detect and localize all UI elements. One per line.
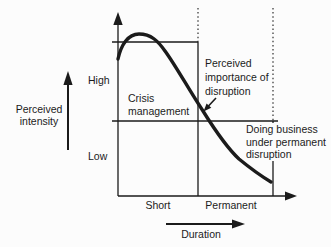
x-tick-short-label: Short [134,199,182,212]
doing-business-line2: under permanent [246,136,326,149]
perceived-importance-line1: Perceived [205,56,269,70]
y-tick-high-label: High [88,74,110,87]
doing-business-line1: Doing business [246,123,326,136]
x-tick-permanent-label: Permanent [202,199,260,212]
y-axis-label-line1: Perceived [10,104,68,116]
disruption-curve-diagram: Perceived intensity High Low Crisis mana… [0,0,331,247]
x-axis-arrowhead [285,192,297,201]
y-axis-label-line2: intensity [10,116,68,128]
importance-annotation-arrow-shaft [209,98,217,106]
crisis-management-label: Crisis management [128,92,189,117]
perceived-importance-line2: importance of [205,70,269,84]
y-tick-low-label: Low [88,150,107,163]
crisis-management-line2: management [128,105,189,118]
x-axis-label: Duration [178,228,224,241]
perceived-importance-label: Perceived importance of disruption [205,56,269,98]
intensity-up-arrowhead [63,71,72,85]
duration-arrowhead [232,219,245,228]
doing-business-line3: disruption [246,148,326,161]
doing-business-label: Doing business under permanent disruptio… [245,123,327,161]
perceived-importance-line3: disruption [205,84,269,98]
y-axis-arrowhead [113,12,122,25]
crisis-management-line1: Crisis [128,92,189,105]
y-axis-label: Perceived intensity [10,104,68,127]
